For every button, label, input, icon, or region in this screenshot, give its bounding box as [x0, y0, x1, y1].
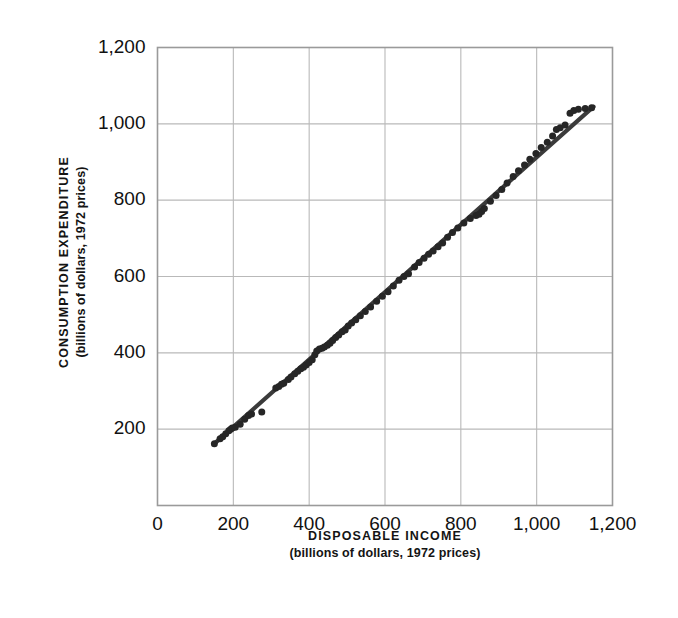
scatter-point	[405, 270, 412, 277]
scatter-point	[449, 229, 456, 236]
scatter-point	[481, 205, 488, 212]
scatter-point	[582, 105, 589, 112]
y-axis-title: CONSUMPTION EXPENDITURE (billions of dol…	[56, 52, 90, 472]
x-axis-title-sub: (billions of dollars, 1972 prices)	[157, 545, 613, 562]
x-axis-title: DISPOSABLE INCOME (billions of dollars, …	[157, 528, 613, 562]
scatter-point	[515, 167, 522, 174]
scatter-point	[373, 298, 380, 305]
scatter-point	[439, 239, 446, 246]
consumption-function-figure: 2004006008001,0001,200 02004006008001,00…	[0, 0, 678, 618]
scatter-point	[385, 288, 392, 295]
scatter-point	[493, 192, 500, 199]
y-axis-title-sub: (billions of dollars, 1972 prices)	[73, 52, 90, 472]
scatter-point	[367, 304, 374, 311]
scatter-point	[538, 144, 545, 151]
scatter-point	[562, 121, 569, 128]
scatter-point	[454, 225, 461, 232]
scatter-point	[549, 133, 556, 140]
scatter-point	[379, 293, 386, 300]
y-axis-title-main: CONSUMPTION EXPENDITURE	[56, 52, 73, 472]
scatter-point	[498, 186, 505, 193]
scatter-point	[390, 283, 397, 290]
scatter-point	[575, 106, 582, 113]
scatter-point	[362, 308, 369, 315]
scatter-point	[248, 410, 255, 417]
scatter-point	[532, 150, 539, 157]
scatter-point	[588, 104, 595, 111]
scatter-point	[504, 179, 511, 186]
scatter-point	[526, 156, 533, 163]
scatter-point	[521, 162, 528, 169]
scatter-point	[510, 173, 517, 180]
scatter-point	[211, 440, 218, 447]
scatter-point	[460, 220, 467, 227]
x-axis-title-main: DISPOSABLE INCOME	[157, 528, 613, 545]
scatter-point	[544, 139, 551, 146]
scatter-point	[258, 408, 265, 415]
scatter-point	[487, 198, 494, 205]
